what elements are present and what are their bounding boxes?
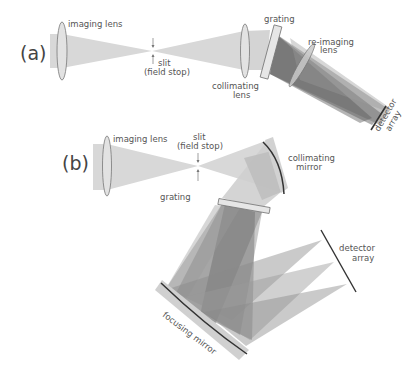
panel-b: (b) imaging lens slit (field stop) grati… [62, 132, 375, 360]
detector-label-b-1: detector [339, 243, 375, 253]
detector-array-b [321, 230, 356, 292]
imaging-lens-a [57, 22, 67, 80]
grating-label-b: grating [160, 192, 191, 202]
detector-label-b-2: array [352, 253, 374, 263]
panel-a-tag: (a) [20, 42, 46, 64]
collimating-mirror-label-2: mirror [296, 162, 322, 172]
imaging-lens-label-a: imaging lens [68, 19, 123, 29]
imaging-lens-label-b: imaging lens [113, 134, 168, 144]
panel-b-tag: (b) [62, 152, 89, 174]
imaging-lens-b [103, 136, 112, 196]
spectrometer-diagram: (a) imaging lens slit (field stop) colli… [0, 0, 417, 378]
slit-label-b-2: (field stop) [177, 141, 223, 151]
collimating-lens-a [241, 24, 250, 78]
collimating-lens-label-a-2: lens [233, 90, 251, 100]
grating-label-a: grating [264, 14, 295, 24]
slit-label-a-2: (field stop) [144, 67, 190, 77]
slit-b [197, 153, 200, 181]
panel-a: (a) imaging lens slit (field stop) colli… [20, 14, 403, 133]
reimaging-lens-label-a-2: lens [320, 45, 338, 55]
